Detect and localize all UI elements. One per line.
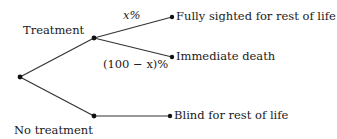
death-outcome-node	[170, 55, 174, 59]
outcome-fully-sighted: Fully sighted for rest of life	[176, 11, 336, 23]
treatment-label: Treatment	[23, 25, 84, 37]
success-probability: x%	[123, 10, 140, 22]
sighted-outcome-node	[170, 15, 174, 19]
outcome-immediate-death: Immediate death	[176, 51, 275, 63]
failure-probability: (100 − x)%	[103, 59, 168, 71]
blind-outcome-node	[168, 114, 172, 118]
edge-root-no-treatment	[20, 77, 94, 116]
edge-root-treatment	[20, 38, 94, 77]
no-treatment-label: No treatment	[14, 125, 93, 137]
root-node	[18, 75, 23, 80]
edge-treatment-death	[94, 38, 172, 57]
outcome-blind: Blind for rest of life	[174, 110, 288, 122]
treatment-node	[92, 36, 97, 41]
no-treatment-node	[92, 114, 97, 119]
